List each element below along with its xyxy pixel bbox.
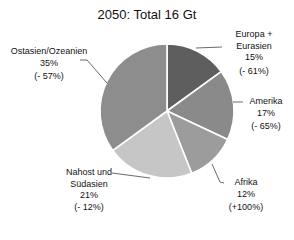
label-europa-name2: Eurasien <box>222 41 286 53</box>
label-amerika-change: (- 65%) <box>241 121 291 133</box>
label-amerika: Amerika 17% (- 65%) <box>241 96 291 133</box>
pie-slices <box>100 44 234 178</box>
leader-line-europa <box>196 47 222 48</box>
label-europa-name1: Europa + <box>222 29 286 41</box>
label-ostasien-pct: 35% <box>4 58 94 70</box>
label-europa-pct: 15% <box>222 52 286 64</box>
label-nahost-pct: 21% <box>64 190 114 202</box>
label-amerika-name: Amerika <box>241 96 291 108</box>
label-afrika-pct: 12% <box>222 189 270 201</box>
label-afrika-change: (+100%) <box>222 202 270 214</box>
label-afrika-name: Afrika <box>222 177 270 189</box>
label-nahost-name2: Südasien <box>64 179 114 191</box>
label-ostasien-name: Ostasien/Ozeanien <box>4 46 94 58</box>
label-nahost: Nahost und Südasien 21% (- 12%) <box>64 167 114 213</box>
label-ostasien-change: (- 57%) <box>4 71 94 83</box>
label-nahost-name1: Nahost und <box>64 167 114 179</box>
label-afrika: Afrika 12% (+100%) <box>222 177 270 214</box>
label-europa: Europa + Eurasien 15% (- 61%) <box>222 29 286 77</box>
label-nahost-change: (- 12%) <box>64 202 114 214</box>
label-europa-change: (- 61%) <box>222 66 286 78</box>
label-ostasien: Ostasien/Ozeanien 35% (- 57%) <box>4 46 94 83</box>
label-amerika-pct: 17% <box>241 108 291 120</box>
